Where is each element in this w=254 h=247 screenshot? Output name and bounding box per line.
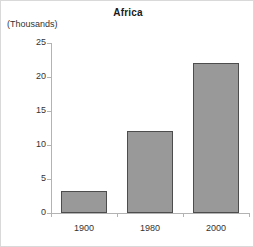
y-axis-label: (Thousands) xyxy=(7,19,58,29)
chart-figure: Africa (Thousands) 0510152025 1900198020… xyxy=(0,0,254,247)
x-tick-mark xyxy=(249,213,250,217)
y-tick-mark xyxy=(47,111,51,112)
y-tick-label: 25 xyxy=(36,37,46,47)
y-tick-mark xyxy=(47,43,51,44)
y-tick-label: 10 xyxy=(36,139,46,149)
plot-area: 0510152025 xyxy=(51,43,249,213)
y-tick-label: 0 xyxy=(41,207,46,217)
y-tick-label: 20 xyxy=(36,71,46,81)
x-tick-mark xyxy=(117,213,118,217)
bar xyxy=(61,191,107,213)
bar xyxy=(127,131,173,213)
chart-title: Africa xyxy=(1,7,254,18)
y-tick-label: 5 xyxy=(41,173,46,183)
x-tick-mark xyxy=(183,213,184,217)
x-tick-label: 2000 xyxy=(206,223,226,233)
y-tick-mark xyxy=(47,145,51,146)
y-tick-mark xyxy=(47,77,51,78)
x-tick-label: 1900 xyxy=(74,223,94,233)
y-tick-label: 15 xyxy=(36,105,46,115)
x-tick-mark xyxy=(51,213,52,217)
x-tick-label: 1980 xyxy=(140,223,160,233)
x-axis-line xyxy=(51,213,249,214)
y-tick-mark xyxy=(47,179,51,180)
bar xyxy=(193,63,239,213)
